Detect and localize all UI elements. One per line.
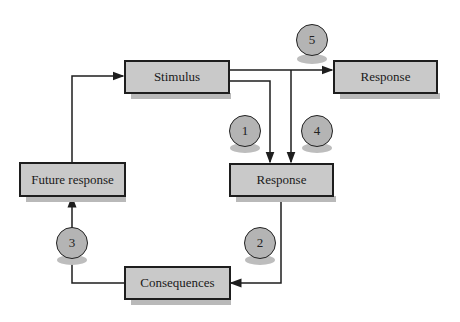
marker-2: 2 <box>244 227 276 259</box>
node-label: Future response <box>31 172 114 188</box>
node-response-middle: Response <box>229 163 334 197</box>
marker-label: 2 <box>257 235 264 251</box>
marker-4: 4 <box>301 115 333 147</box>
node-stimulus: Stimulus <box>124 60 230 94</box>
node-label: Consequences <box>140 275 214 291</box>
marker-label: 5 <box>309 32 316 48</box>
marker-1: 1 <box>229 115 261 147</box>
marker-label: 3 <box>69 235 76 251</box>
node-label: Response <box>361 69 411 85</box>
marker-label: 4 <box>314 123 321 139</box>
node-label: Stimulus <box>154 69 200 85</box>
marker-5: 5 <box>296 24 328 56</box>
marker-label: 1 <box>242 123 249 139</box>
node-future-response: Future response <box>19 162 126 197</box>
node-consequences: Consequences <box>124 266 231 300</box>
node-label: Response <box>257 172 307 188</box>
marker-3: 3 <box>56 227 88 259</box>
node-response-top: Response <box>333 60 438 94</box>
